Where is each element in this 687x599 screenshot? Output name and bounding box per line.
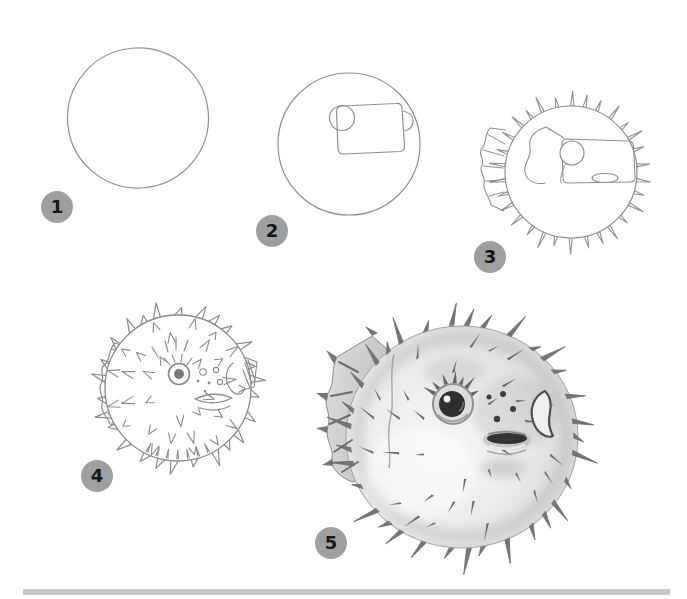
guide-circle xyxy=(62,42,215,194)
eye-guide xyxy=(330,106,355,131)
eye-highlight xyxy=(444,396,451,403)
chin-shading xyxy=(481,459,525,477)
eye-outline xyxy=(560,141,584,165)
eye-iris xyxy=(439,391,465,417)
step-2-badge: 2 xyxy=(256,215,288,247)
step-1-illustration-base-circle xyxy=(62,42,215,194)
mouth-opening xyxy=(487,433,527,444)
step-1-badge: 1 xyxy=(41,191,73,223)
step-3-illustration-spiky-outline xyxy=(480,91,650,253)
step-2-number: 2 xyxy=(266,222,279,240)
step-4-badge: 4 xyxy=(81,460,113,492)
step-5-badge: 5 xyxy=(315,527,347,559)
eye-pupil xyxy=(174,369,184,379)
step-4-illustration-detailed-sketch xyxy=(92,303,265,475)
step-5-illustration-final-shaded xyxy=(316,303,597,574)
snout-box-guide xyxy=(336,103,404,154)
tail-fin-outline xyxy=(480,128,506,211)
tutorial-canvas xyxy=(0,0,687,599)
footer-rule xyxy=(23,589,670,595)
eye xyxy=(433,384,473,424)
step-5-number: 5 xyxy=(325,534,338,552)
step-3-badge: 3 xyxy=(474,241,506,273)
step-1-number: 1 xyxy=(51,198,64,216)
drawing-tutorial-page: 1 2 3 4 5 xyxy=(0,0,687,599)
guide-circle xyxy=(278,73,420,215)
step-4-number: 4 xyxy=(91,467,104,485)
step-2-illustration-snout-guides xyxy=(278,73,420,215)
belly-highlight xyxy=(365,427,475,517)
step-3-number: 3 xyxy=(484,248,497,266)
pectoral-bump-guide xyxy=(403,111,413,131)
